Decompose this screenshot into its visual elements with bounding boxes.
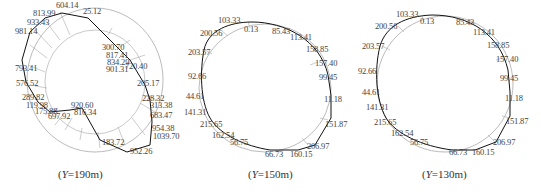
node-value-label: 85.43 <box>456 18 474 27</box>
node-value-label: 160.15 <box>290 150 312 159</box>
panel-caption: (Y=150m) <box>248 168 293 180</box>
node-value-label: 113.41 <box>290 33 312 42</box>
node-value-label: 85.43 <box>272 27 290 36</box>
node-value-label: 203.57 <box>362 42 384 51</box>
node-value-label: 56.75 <box>410 138 428 147</box>
node-value-label: 141.31 <box>184 108 206 117</box>
node-value-label: 66.73 <box>449 148 467 157</box>
node-value-label: 151.87 <box>506 117 528 126</box>
node-value-label: 25.12 <box>83 7 101 16</box>
panel-y150: 103.330.13200.5685.43113.41203.57158.851… <box>190 0 360 196</box>
node-value-label: 11.18 <box>324 95 342 104</box>
node-value-label: 66.73 <box>265 150 283 159</box>
node-value-label: 215.65 <box>374 118 396 127</box>
node-value-label: 103.33 <box>218 16 240 25</box>
node-value-label: 200.56 <box>200 29 222 38</box>
node-value-label: 206.97 <box>493 138 515 147</box>
node-value-label: 215.65 <box>200 120 222 129</box>
node-value-label: 683.47 <box>150 111 172 120</box>
node-value-label: 205.17 <box>137 79 159 88</box>
node-value-label: 0.13 <box>420 17 434 26</box>
node-value-label: 92.66 <box>358 67 376 76</box>
node-value-label: 151.87 <box>325 120 347 129</box>
node-value-label: 697.92 <box>48 112 70 121</box>
panel-y190: 604.14813.9925.12933.43981.14300.70817.4… <box>0 0 190 196</box>
node-value-label: 157.40 <box>315 59 337 68</box>
node-value-label: 203.57 <box>188 48 210 57</box>
node-value-label: 56.75 <box>230 138 248 147</box>
node-value-label: 313.38 <box>150 101 172 110</box>
node-value-label: 44.61 <box>362 88 380 97</box>
node-value-label: 158.85 <box>306 45 328 54</box>
node-value-label: 103.33 <box>396 10 418 19</box>
node-value-label: 952.26 <box>130 147 152 156</box>
panel-y130: 103.330.13200.5685.43113.41203.57158.851… <box>360 0 541 196</box>
node-value-label: 200.56 <box>375 22 397 31</box>
node-value-label: 158.85 <box>487 41 509 50</box>
node-value-label: 604.14 <box>56 1 78 10</box>
node-value-label: 92.66 <box>188 72 206 81</box>
node-value-label: 44.61 <box>186 92 204 101</box>
panel-caption: (Y=190m) <box>58 168 103 180</box>
node-value-label: 157.40 <box>496 55 518 64</box>
node-value-label: 183.72 <box>102 138 124 147</box>
node-value-label: 793.41 <box>15 64 37 73</box>
node-value-label: 1039.70 <box>153 132 179 141</box>
node-value-label: 720.40 <box>125 62 147 71</box>
node-value-label: 11.18 <box>505 94 523 103</box>
node-value-label: 576.52 <box>16 79 38 88</box>
caption-suffix: =130m) <box>432 168 467 180</box>
caption-suffix: =190m) <box>68 168 103 180</box>
panel-caption: (Y=130m) <box>422 168 467 180</box>
node-value-label: 816.34 <box>74 108 96 117</box>
node-value-label: 160.15 <box>472 148 494 157</box>
node-value-label: 113.41 <box>473 28 495 37</box>
node-value-label: 0.13 <box>244 25 258 34</box>
node-value-label: 99.45 <box>319 73 337 82</box>
caption-suffix: =150m) <box>258 168 293 180</box>
node-value-label: 141.31 <box>366 103 388 112</box>
node-value-label: 981.14 <box>15 27 37 36</box>
node-value-label: 99.45 <box>500 74 518 83</box>
